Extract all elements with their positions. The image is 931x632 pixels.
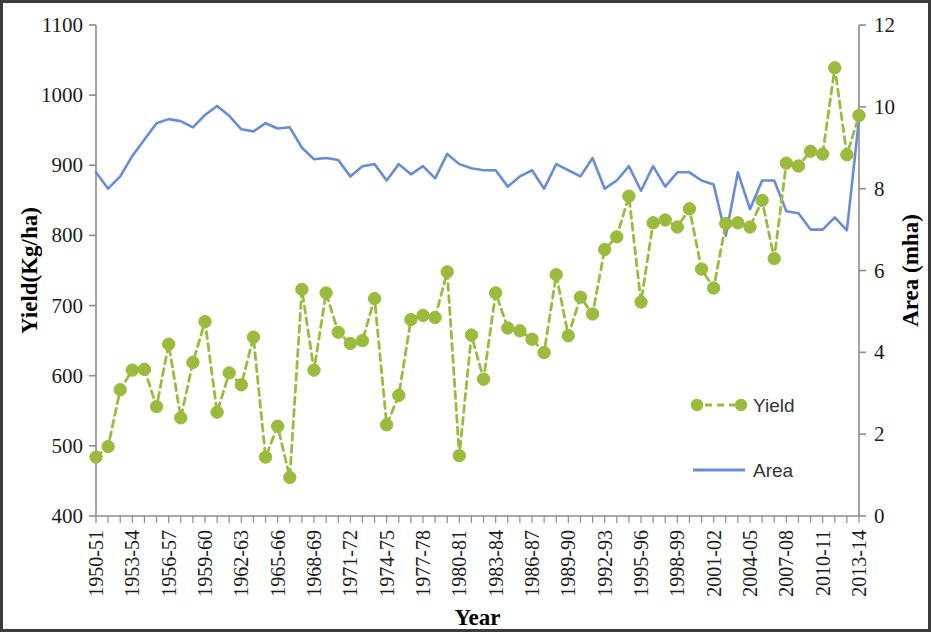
series-marker-yield	[780, 157, 792, 169]
series-marker-yield	[526, 333, 538, 345]
series-marker-yield	[344, 337, 356, 349]
y-axis-left-tick-label: 700	[52, 294, 84, 318]
x-axis-tick-label: 1980-81	[448, 530, 470, 597]
series-marker-yield	[211, 406, 223, 418]
series-marker-yield	[562, 330, 574, 342]
x-axis-tick-label: 1959-60	[194, 530, 216, 597]
series-marker-yield	[829, 62, 841, 74]
series-line-yield	[96, 68, 859, 478]
series-marker-yield	[707, 282, 719, 294]
series-marker-yield	[162, 338, 174, 350]
series-marker-yield	[477, 373, 489, 385]
series-marker-yield	[792, 160, 804, 172]
x-axis-tick-label: 1995-96	[630, 530, 652, 597]
series-marker-yield	[199, 316, 211, 328]
series-marker-yield	[635, 296, 647, 308]
x-axis-tick-label: 2013-14	[848, 530, 870, 597]
series-marker-yield	[441, 266, 453, 278]
series-marker-yield	[453, 449, 465, 461]
chart-frame: 110010009008007006005004001210864201950-…	[0, 0, 931, 632]
y-axis-right-tick-label: 0	[874, 504, 885, 528]
series-marker-yield	[271, 420, 283, 432]
x-axis-tick-label: 1956-57	[158, 530, 180, 597]
y-axis-left-tick-label: 600	[52, 364, 84, 388]
series-marker-yield	[332, 326, 344, 338]
legend-marker-yield-left	[691, 399, 703, 411]
series-marker-yield	[429, 311, 441, 323]
chart-canvas: 110010009008007006005004001210864201950-…	[3, 3, 931, 632]
series-marker-yield	[768, 252, 780, 264]
series-marker-yield	[235, 379, 247, 391]
x-axis-tick-label: 1983-84	[485, 530, 507, 597]
series-marker-yield	[368, 292, 380, 304]
series-line-area	[96, 106, 859, 236]
series-marker-yield	[671, 221, 683, 233]
series-marker-yield	[417, 309, 429, 321]
legend-marker-yield-right	[735, 399, 747, 411]
series-marker-yield	[586, 308, 598, 320]
x-axis-tick-label: 1953-54	[121, 530, 143, 597]
series-marker-yield	[465, 329, 477, 341]
series-marker-yield	[611, 231, 623, 243]
y-axis-left-tick-label: 800	[52, 223, 84, 247]
series-marker-yield	[126, 364, 138, 376]
series-marker-yield	[853, 109, 865, 121]
y-axis-left-tick-label: 400	[52, 504, 84, 528]
y-axis-left-tick-label: 500	[52, 434, 84, 458]
series-marker-yield	[732, 217, 744, 229]
dual-axis-chart: 110010009008007006005004001210864201950-…	[3, 3, 931, 632]
y-axis-right-tick-label: 10	[874, 95, 895, 119]
series-marker-yield	[538, 346, 550, 358]
x-axis-tick-label: 1962-63	[230, 530, 252, 597]
x-axis-tick-label: 1998-99	[666, 530, 688, 597]
x-axis-tick-label: 1971-72	[339, 530, 361, 597]
x-axis-tick-label: 2001-02	[703, 530, 725, 597]
x-axis-title: Year	[455, 605, 501, 630]
x-axis-tick-label: 1986-87	[521, 530, 543, 597]
series-marker-yield	[393, 389, 405, 401]
y-axis-left-tick-label: 1000	[41, 83, 83, 107]
series-marker-yield	[756, 194, 768, 206]
series-marker-yield	[150, 400, 162, 412]
series-marker-yield	[296, 283, 308, 295]
x-axis-tick-label: 2004-05	[739, 530, 761, 597]
series-marker-yield	[380, 419, 392, 431]
series-marker-yield	[102, 440, 114, 452]
series-marker-yield	[647, 217, 659, 229]
y-axis-left-tick-label: 900	[52, 153, 84, 177]
series-marker-yield	[247, 331, 259, 343]
series-marker-yield	[259, 451, 271, 463]
legend-label-area: Area	[753, 460, 794, 481]
x-axis-tick-label: 2010-11	[812, 530, 834, 596]
series-marker-yield	[816, 148, 828, 160]
y-axis-right-title: Area (mha)	[898, 214, 923, 327]
x-axis-tick-label: 1950-51	[85, 530, 107, 597]
y-axis-right-tick-label: 4	[874, 340, 885, 364]
x-axis-tick-label: 2007-08	[775, 530, 797, 597]
x-axis-tick-label: 1968-69	[303, 530, 325, 597]
x-axis-tick-label: 1977-78	[412, 530, 434, 597]
y-axis-right-tick-label: 8	[874, 177, 885, 201]
series-marker-yield	[623, 190, 635, 202]
series-marker-yield	[502, 322, 514, 334]
series-marker-yield	[320, 287, 332, 299]
x-axis-tick-label: 1992-93	[594, 530, 616, 597]
series-marker-yield	[550, 269, 562, 281]
series-marker-yield	[659, 214, 671, 226]
x-axis-tick-label: 1989-90	[557, 530, 579, 597]
series-marker-yield	[175, 412, 187, 424]
series-marker-yield	[489, 287, 501, 299]
series-marker-yield	[405, 313, 417, 325]
series-marker-yield	[356, 334, 368, 346]
x-axis-tick-label: 1965-66	[267, 530, 289, 597]
series-marker-yield	[841, 149, 853, 161]
series-marker-yield	[804, 145, 816, 157]
series-marker-yield	[90, 451, 102, 463]
x-axis-tick-label: 1974-75	[376, 530, 398, 597]
series-marker-yield	[223, 367, 235, 379]
series-marker-yield	[114, 384, 126, 396]
y-axis-right-tick-label: 12	[874, 13, 895, 37]
series-marker-yield	[514, 325, 526, 337]
series-marker-yield	[683, 203, 695, 215]
y-axis-right-tick-label: 2	[874, 422, 885, 446]
